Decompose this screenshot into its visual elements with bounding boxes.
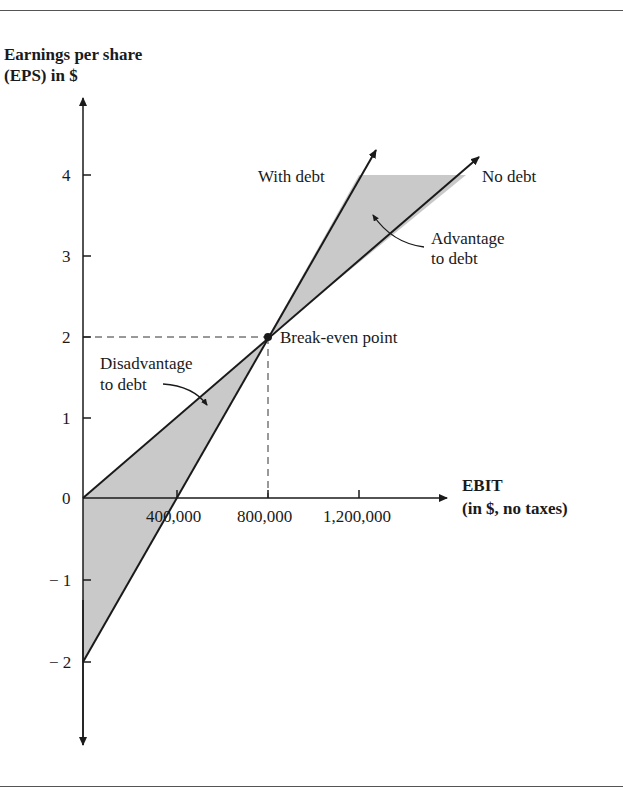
y-tick-label-0: 0: [62, 489, 71, 508]
x-tick-label-1200k: 1,200,000: [323, 507, 391, 526]
x-tick-label-400k: 400,000: [146, 507, 201, 526]
y-tick-label-1: 1: [62, 409, 71, 428]
y-tick-label-neg1: − 1: [49, 571, 71, 590]
with-debt-line: [83, 150, 376, 662]
x-ticks: [177, 490, 359, 498]
break-even-label: Break-even point: [280, 328, 398, 347]
advantage-label-line1: Advantage: [431, 229, 505, 248]
y-tick-label-neg2: − 2: [49, 653, 71, 672]
y-tick-label-4: 4: [62, 166, 71, 185]
x-axis-title-line1: EBIT: [462, 476, 503, 495]
disadvantage-label-line2: to debt: [100, 375, 147, 394]
y-axis-title-line1: Earnings per share: [4, 45, 143, 64]
y-axis-title-line2: (EPS) in $: [4, 66, 78, 85]
advantage-label-line2: to debt: [431, 249, 478, 268]
y-tick-label-3: 3: [62, 247, 71, 266]
x-axis-title-line2: (in $, no taxes): [462, 499, 568, 518]
x-tick-label-800k: 800,000: [237, 507, 292, 526]
break-even-point-marker: [264, 333, 272, 341]
disadvantage-label-line1: Disadvantage: [100, 354, 193, 373]
with-debt-label: With debt: [258, 167, 325, 186]
y-tick-label-2: 2: [62, 328, 71, 347]
no-debt-label: No debt: [482, 167, 537, 186]
eps-ebit-chart: Earnings per share (EPS) in $ EBIT (in $…: [0, 0, 623, 795]
